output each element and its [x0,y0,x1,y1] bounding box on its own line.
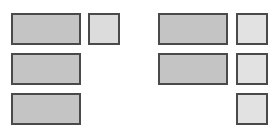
left-wide-block-1 [11,13,81,45]
right-square-2 [236,53,268,85]
left-square-1 [88,13,120,45]
right-wide-block-2 [158,53,228,85]
left-wide-block-2 [11,53,81,85]
right-square-1 [236,13,268,45]
left-wide-block-3 [11,93,81,125]
right-square-3 [236,93,268,125]
right-wide-block-1 [158,13,228,45]
